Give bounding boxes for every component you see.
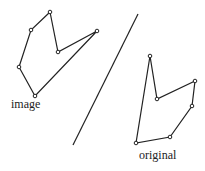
vertex-point [190,104,194,108]
vertex-point [95,29,99,33]
vertex-point [17,65,21,69]
original-polygon [136,56,195,143]
vertex-point [48,10,52,14]
vertex-point [155,97,159,101]
vertex-point [56,50,60,54]
vertex-point [134,141,138,145]
vertex-point [148,54,152,58]
vertex-point [168,135,172,139]
image-vertices [17,10,99,98]
diagram-svg [0,0,205,171]
image-label: image [11,98,40,110]
vertex-point [193,79,197,83]
mirror-line [73,14,138,145]
original-label: original [139,149,176,161]
reflection-diagram: image original [0,0,205,171]
vertex-point [29,28,33,32]
